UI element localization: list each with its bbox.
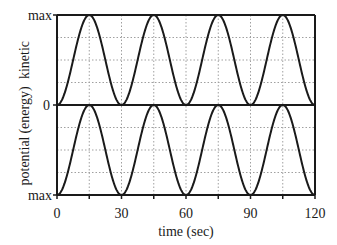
y-tick-mid-zero: 0: [43, 98, 50, 113]
x-axis-label: time (sec): [158, 224, 214, 240]
y-label-kinetic: kinetic: [17, 41, 32, 79]
plot-frame: [57, 15, 315, 195]
x-tick-30: 30: [115, 206, 129, 221]
y-label-potential: potential: [17, 136, 32, 185]
x-tick-120: 120: [305, 206, 326, 221]
x-tick-labels: 0 30 60 90 120: [54, 206, 326, 221]
x-tick-60: 60: [179, 206, 193, 221]
y-tick-bottom-max: max: [28, 188, 52, 203]
x-tick-90: 90: [244, 206, 258, 221]
y-label-energy: (energy): [17, 86, 33, 133]
energy-chart: max 0 max kinetic (energy) potential 0 3…: [0, 0, 337, 245]
x-tick-0: 0: [54, 206, 61, 221]
y-tick-top-max: max: [28, 8, 52, 23]
